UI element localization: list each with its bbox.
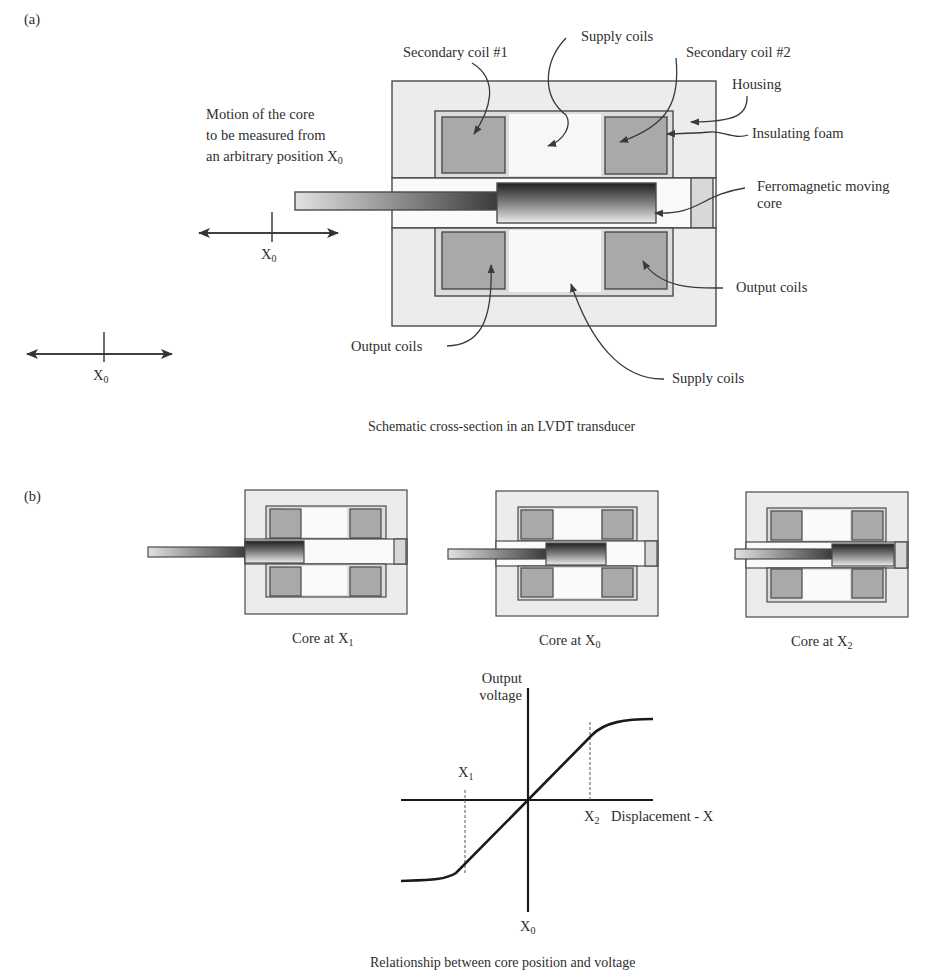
graph-marker-x2-sub: 2 xyxy=(594,815,599,826)
marker-x0-upper: X0 xyxy=(261,246,276,263)
lvdt-core-at-x2 xyxy=(735,492,908,617)
secondary-coil-2 xyxy=(605,117,667,174)
label-supply-coils-top: Supply coils xyxy=(581,28,653,45)
output-coil-right xyxy=(605,232,667,289)
label-core-at-x1-text: Core at X xyxy=(292,630,348,646)
graph-marker-x0-base: X xyxy=(520,918,530,934)
marker-x0-lower-sub: 0 xyxy=(103,374,108,385)
graph-marker-x1: X1 xyxy=(458,764,473,781)
graph-marker-x1-base: X xyxy=(458,764,468,780)
supply-coil-lower xyxy=(509,230,601,292)
graph-y-label-line1: Output xyxy=(482,670,522,686)
supply-coil-upper xyxy=(509,114,601,176)
label-ferromagnetic-core-line2: core xyxy=(757,195,782,211)
label-supply-coils-bottom: Supply coils xyxy=(672,370,744,387)
label-insulating-foam: Insulating foam xyxy=(752,125,843,142)
graph-marker-x0-sub: 0 xyxy=(530,925,535,936)
label-core-at-x2: Core at X2 xyxy=(791,633,852,650)
label-housing: Housing xyxy=(732,76,781,93)
marker-x0-upper-base: X xyxy=(261,246,271,262)
graph-y-label-line2: voltage xyxy=(479,687,522,703)
lvdt-main-diagram xyxy=(295,81,716,326)
marker-x0-lower-base: X xyxy=(93,367,103,383)
lvdt-core-at-x1 xyxy=(148,490,407,614)
label-secondary-coil-1: Secondary coil #1 xyxy=(403,44,508,61)
label-ferromagnetic-core: Ferromagnetic moving core xyxy=(757,178,889,212)
label-ferromagnetic-core-line1: Ferromagnetic moving xyxy=(757,178,889,194)
motion-arrow-lower xyxy=(27,332,172,362)
label-core-at-x1-sub: 1 xyxy=(348,637,353,648)
label-core-at-x0-sub: 0 xyxy=(595,639,600,650)
motion-note-line2: to be measured from xyxy=(206,127,326,143)
core-rod xyxy=(295,192,499,210)
graph-marker-x0: X0 xyxy=(520,918,535,935)
graph-marker-x2: X2 xyxy=(584,808,599,825)
graph-x-label: Displacement - X xyxy=(611,808,713,825)
motion-note-line3: an arbitrary position X xyxy=(206,148,338,164)
marker-x0-lower: X0 xyxy=(93,367,108,384)
label-core-at-x2-text: Core at X xyxy=(791,633,847,649)
ferromagnetic-core xyxy=(497,183,656,223)
caption-part-a: Schematic cross-section in an LVDT trans… xyxy=(368,418,635,435)
label-output-coils-left: Output coils xyxy=(351,338,422,355)
motion-note-line1: Motion of the core xyxy=(206,106,314,122)
lvdt-core-at-x0 xyxy=(448,491,658,616)
graph-marker-x1-sub: 1 xyxy=(468,771,473,782)
panel-label-a: (a) xyxy=(24,11,40,28)
output-voltage-graph xyxy=(401,688,653,912)
marker-x0-upper-sub: 0 xyxy=(271,253,276,264)
motion-arrow-upper xyxy=(199,212,338,242)
motion-note-subscript: 0 xyxy=(338,155,343,166)
label-secondary-coil-2: Secondary coil #2 xyxy=(686,44,791,61)
motion-note: Motion of the core to be measured from a… xyxy=(206,104,343,167)
secondary-coil-1 xyxy=(442,117,505,173)
label-core-at-x0-text: Core at X xyxy=(539,632,595,648)
label-core-at-x0: Core at X0 xyxy=(539,632,600,649)
panel-label-b: (b) xyxy=(24,488,41,505)
caption-part-b-partial: Relationship between core position and v… xyxy=(370,954,636,971)
label-core-at-x2-sub: 2 xyxy=(847,640,852,651)
graph-y-label: Output voltage xyxy=(468,670,522,704)
label-output-coils-right: Output coils xyxy=(736,279,807,296)
output-coil-left xyxy=(442,232,505,289)
graph-marker-x2-base: X xyxy=(584,808,594,824)
label-core-at-x1: Core at X1 xyxy=(292,630,353,647)
